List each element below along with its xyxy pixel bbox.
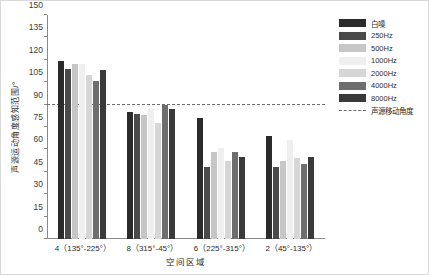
bar <box>218 148 224 239</box>
legend-item[interactable]: 2000Hz <box>339 67 427 80</box>
legend-item[interactable]: 250Hz <box>339 30 427 43</box>
bar <box>273 167 279 239</box>
legend-swatch <box>339 94 366 102</box>
bar <box>127 112 133 239</box>
y-tick-label: 60 <box>5 134 43 144</box>
bar-group <box>197 15 245 239</box>
x-tick-label: 6（225°-315°） <box>194 242 250 253</box>
y-tick-label: 150 <box>5 0 43 10</box>
y-tick-label: 45 <box>5 157 43 167</box>
bar <box>79 64 85 239</box>
legend-label: 白噪 <box>371 18 385 29</box>
bar <box>169 109 175 239</box>
bar-groups <box>47 15 325 239</box>
y-tick-label: 135 <box>5 22 43 32</box>
legend-swatch <box>339 19 366 27</box>
x-tick-label: 2（45°-135°） <box>265 242 317 253</box>
y-tick-label: 90 <box>5 90 43 100</box>
x-axis-ticks: 4（135°-225°）8（315°-45°）6（225°-315°）2（45°… <box>47 242 325 253</box>
legend-dash-icon <box>339 110 366 111</box>
y-tick-label: 120 <box>5 45 43 55</box>
y-tick-label: 75 <box>5 112 43 122</box>
bar <box>148 109 154 239</box>
legend-swatch <box>339 44 366 52</box>
legend-label: 1000Hz <box>371 56 397 65</box>
bar-group <box>58 15 106 239</box>
x-tick-label: 8（315°-45°） <box>126 242 178 253</box>
bar <box>141 115 147 239</box>
bar <box>65 69 71 239</box>
legend-label: 250Hz <box>371 31 393 40</box>
chart-figure: 声源运动角度感知范围/° 0153045607590105120135150 4… <box>0 0 429 275</box>
bar <box>239 157 245 239</box>
legend-item[interactable]: 4000Hz <box>339 80 427 93</box>
bar <box>211 152 217 239</box>
legend-item[interactable]: 1000Hz <box>339 55 427 68</box>
bar <box>134 114 140 239</box>
y-tick-label: 0 <box>5 224 43 234</box>
bar-group <box>266 15 314 239</box>
y-tick-label: 30 <box>5 179 43 189</box>
bar <box>86 75 92 239</box>
y-tick-label: 15 <box>5 202 43 212</box>
bar <box>301 164 307 239</box>
bar <box>204 167 210 239</box>
bar <box>155 123 161 239</box>
legend-item[interactable]: 白噪 <box>339 17 427 30</box>
legend-item[interactable]: 500Hz <box>339 42 427 55</box>
bar <box>280 161 286 239</box>
legend-label: 4000Hz <box>371 81 397 90</box>
bar <box>232 152 238 239</box>
bar <box>93 81 99 239</box>
bar <box>287 140 293 239</box>
plot-area: 0153045607590105120135150 <box>47 15 325 239</box>
legend-item[interactable]: 8000Hz <box>339 92 427 105</box>
legend-swatch <box>339 32 366 40</box>
legend-swatch <box>339 82 366 90</box>
bar <box>162 105 168 239</box>
bar <box>266 136 272 239</box>
bar <box>197 118 203 239</box>
x-axis-title: 空间区域 <box>47 255 325 267</box>
bar <box>308 157 314 239</box>
legend-label: 声源移动角度 <box>371 105 413 116</box>
x-tick-label: 4（135°-225°） <box>55 242 111 253</box>
y-tick-label: 105 <box>5 67 43 77</box>
legend-label: 8000Hz <box>371 94 397 103</box>
legend-swatch <box>339 57 366 65</box>
bar <box>294 158 300 239</box>
legend-swatch <box>339 69 366 77</box>
bar <box>72 64 78 239</box>
legend: 白噪250Hz500Hz1000Hz2000Hz4000Hz8000Hz声源移动… <box>339 17 427 117</box>
bar <box>225 161 231 239</box>
bar <box>58 61 64 239</box>
legend-item-reference-line[interactable]: 声源移动角度 <box>339 105 427 118</box>
legend-label: 500Hz <box>371 44 393 53</box>
bar-group <box>127 15 175 239</box>
legend-label: 2000Hz <box>371 69 397 78</box>
bar <box>100 70 106 239</box>
